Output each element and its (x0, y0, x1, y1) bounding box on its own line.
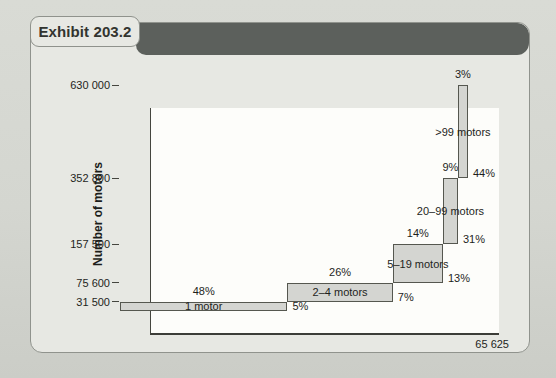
segment-name-label: 1 motor (144, 300, 264, 312)
y-axis-tick (112, 244, 119, 245)
segment-motors-pct-label: 7% (398, 291, 414, 303)
segment-motors-pct-label: 44% (473, 167, 495, 179)
segment-name-label: 20–99 motors (390, 205, 510, 217)
y-axis-tick (112, 282, 119, 283)
page-background: Number of motors Number of orders 65 625… (0, 0, 556, 378)
segment-name-label: 5–19 motors (358, 258, 478, 270)
y-axis-tick (112, 85, 119, 86)
segment-orders-pct-label: 48% (174, 285, 234, 297)
y-axis-tick-label: 75 600 (56, 277, 110, 289)
segment-orders-pct-label: 14% (388, 227, 448, 239)
segment-orders-pct-label: 3% (433, 68, 493, 80)
y-axis-tick-label: 31 500 (56, 296, 110, 308)
exhibit-title: Exhibit 203.2 (38, 23, 131, 40)
chart-layer: 31 50075 600157 500352 800630 00048%1 mo… (0, 0, 556, 378)
y-axis-tick-label: 352 800 (56, 172, 110, 184)
y-axis-tick-label: 630 000 (56, 79, 110, 91)
exhibit-title-tab: Exhibit 203.2 (30, 16, 140, 47)
segment-name-label: 2–4 motors (280, 286, 400, 298)
y-axis-tick-label: 157 500 (56, 238, 110, 250)
segment-motors-pct-label: 31% (463, 233, 485, 245)
segment-orders-pct-label: 9% (420, 161, 480, 173)
y-axis-tick (112, 301, 119, 302)
y-axis-tick (112, 178, 119, 179)
segment-motors-pct-label: 13% (448, 272, 470, 284)
segment-name-label: >99 motors (403, 126, 523, 138)
